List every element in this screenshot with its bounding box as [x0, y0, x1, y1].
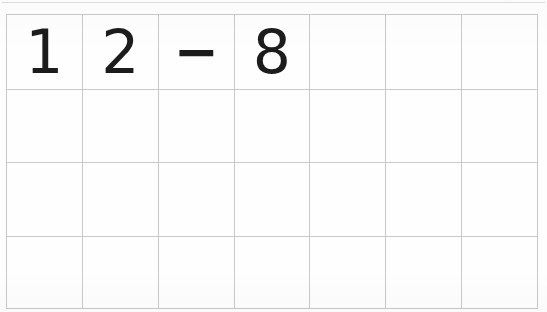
grid-cell-r1c5[interactable] [310, 15, 386, 90]
table-row [7, 163, 538, 237]
grid-cell-r4c5[interactable] [310, 237, 386, 309]
grid-cell-r3c4[interactable] [234, 163, 310, 237]
grid-cell-r2c6[interactable] [386, 90, 462, 163]
grid-cell-r1c7[interactable] [462, 15, 538, 90]
grid-cell-r2c5[interactable] [310, 90, 386, 163]
table-row [7, 90, 538, 163]
grid-cell-r4c4[interactable] [234, 237, 310, 309]
grid-cell-r3c5[interactable] [310, 163, 386, 237]
grid-cell-r1c4[interactable]: 8 [234, 15, 310, 90]
grid-cell-r2c2[interactable] [82, 90, 158, 163]
table-row: 1 2 − 8 [7, 15, 538, 90]
cell-glyph-r1c4: 8 [235, 15, 310, 89]
minus-sign-icon: − [159, 15, 234, 89]
grid-cell-r1c2[interactable]: 2 [82, 15, 158, 90]
grid-cell-r2c4[interactable] [234, 90, 310, 163]
grid-cell-r3c6[interactable] [386, 163, 462, 237]
grid-cell-r2c7[interactable] [462, 90, 538, 163]
grid-cell-r1c3[interactable]: − [158, 15, 234, 90]
grid-cell-r4c1[interactable] [7, 237, 83, 309]
grid-cell-r3c3[interactable] [158, 163, 234, 237]
grid-cell-r1c1[interactable]: 1 [7, 15, 83, 90]
worksheet-page: 1 2 − 8 [0, 0, 547, 312]
grid-cell-r3c7[interactable] [462, 163, 538, 237]
answer-grid: 1 2 − 8 [6, 14, 538, 309]
scan-edge-rule [2, 2, 545, 3]
grid-cell-r2c3[interactable] [158, 90, 234, 163]
grid-cell-r4c3[interactable] [158, 237, 234, 309]
cell-glyph-r1c1: 1 [7, 15, 82, 89]
grid-cell-r2c1[interactable] [7, 90, 83, 163]
grid-cell-r4c6[interactable] [386, 237, 462, 309]
grid-cell-r1c6[interactable] [386, 15, 462, 90]
table-row [7, 237, 538, 309]
grid-cell-r4c7[interactable] [462, 237, 538, 309]
grid-cell-r4c2[interactable] [82, 237, 158, 309]
grid-cell-r3c2[interactable] [82, 163, 158, 237]
cell-glyph-r1c2: 2 [83, 15, 158, 89]
grid-cell-r3c1[interactable] [7, 163, 83, 237]
